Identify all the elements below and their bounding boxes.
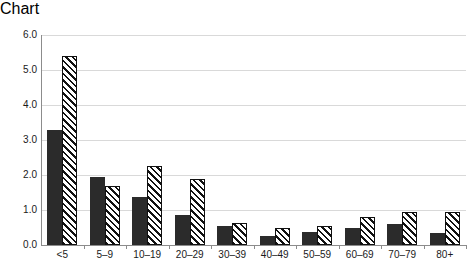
x-tick-mark — [381, 245, 382, 249]
bar — [402, 212, 417, 245]
x-tick-label: 60–69 — [339, 250, 382, 260]
bar-group — [211, 35, 254, 245]
bar-group — [381, 35, 424, 245]
bar-group — [296, 35, 339, 245]
y-tick-label: 1.0 — [3, 205, 37, 215]
bar — [345, 228, 360, 245]
x-tick-mark — [126, 245, 127, 249]
x-tick-label: 50–59 — [296, 250, 339, 260]
y-tick-label: 0.0 — [3, 240, 37, 250]
x-tick-mark — [296, 245, 297, 249]
bar — [275, 228, 290, 246]
x-tick-mark — [254, 245, 255, 249]
y-axis-labels: 0.01.02.03.04.05.06.0 — [0, 18, 37, 262]
bar-group — [339, 35, 382, 245]
bar-groups — [41, 35, 466, 245]
x-tick-label: 80+ — [424, 250, 467, 260]
bar — [62, 56, 77, 245]
bar — [232, 223, 247, 245]
x-tick-mark — [424, 245, 425, 249]
bar-group — [84, 35, 127, 245]
bar — [217, 226, 232, 245]
x-tick-label: 40–49 — [254, 250, 297, 260]
x-tick-mark — [169, 245, 170, 249]
x-tick-label: 20–29 — [169, 250, 212, 260]
bar — [132, 197, 147, 245]
bar-group — [41, 35, 84, 245]
x-tick-label: 5–9 — [84, 250, 127, 260]
bar-group — [254, 35, 297, 245]
y-tick-label: 6.0 — [3, 30, 37, 40]
bar — [105, 186, 120, 245]
bar — [387, 224, 402, 245]
x-tick-label: 70–79 — [381, 250, 424, 260]
y-tick-label: 5.0 — [3, 65, 37, 75]
x-tick-label: 10–19 — [126, 250, 169, 260]
x-tick-label: 30–39 — [211, 250, 254, 260]
x-tick-label: <5 — [41, 250, 84, 260]
y-tick-label: 4.0 — [3, 100, 37, 110]
bar — [260, 236, 275, 245]
bar — [445, 212, 460, 245]
bar-group — [169, 35, 212, 245]
bar — [147, 166, 162, 245]
bar-group — [424, 35, 467, 245]
bar-chart: 0.01.02.03.04.05.06.0 <55–910–1920–2930–… — [0, 18, 473, 262]
bar — [302, 232, 317, 245]
y-tick-label: 2.0 — [3, 170, 37, 180]
x-tick-mark — [339, 245, 340, 249]
bar — [90, 177, 105, 245]
bar — [317, 226, 332, 245]
y-tick-label: 3.0 — [3, 135, 37, 145]
x-tick-mark — [466, 245, 467, 249]
bar — [360, 217, 375, 245]
x-tick-mark — [211, 245, 212, 249]
x-axis-labels: <55–910–1920–2930–3940–4950–5960–6970–79… — [41, 250, 466, 260]
bar — [175, 215, 190, 245]
bar — [430, 233, 445, 245]
x-tick-mark — [84, 245, 85, 249]
bar-group — [126, 35, 169, 245]
bar — [47, 130, 62, 246]
bar — [190, 179, 205, 246]
